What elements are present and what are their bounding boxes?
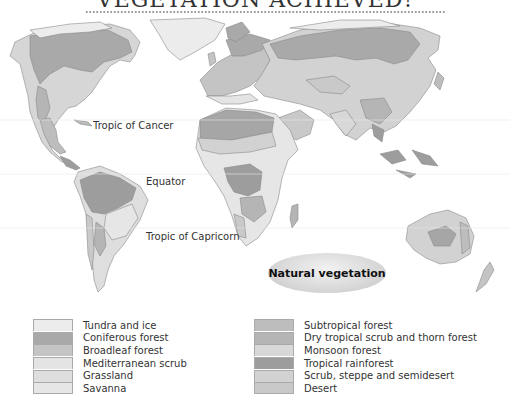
- legend-swatch: [254, 382, 294, 394]
- legend-swatch: [33, 319, 73, 331]
- legend-item-dry-tropical: Dry tropical scrub and thorn forest: [254, 332, 477, 345]
- legend-item-mediterranean: Mediterranean scrub: [33, 357, 187, 370]
- legend-swatch: [254, 357, 294, 369]
- legend-item-desert: Desert: [254, 382, 477, 395]
- legend-item-subtropical: Subtropical forest: [254, 319, 477, 332]
- legend-right: Subtropical forest Dry tropical scrub an…: [254, 319, 477, 395]
- tropic-of-cancer-label: Tropic of Cancer: [93, 120, 173, 131]
- legend-item-scrub-steppe: Scrub, steppe and semidesert: [254, 369, 477, 382]
- legend-swatch: [33, 344, 73, 356]
- legend-swatch: [254, 344, 294, 356]
- legend-swatch: [254, 332, 294, 344]
- legend-left: Tundra and ice Coniferous forest Broadle…: [33, 319, 187, 395]
- legend-item-rainforest: Tropical rainforest: [254, 357, 477, 370]
- legend-swatch: [33, 382, 73, 394]
- legend-item-grassland: Grassland: [33, 369, 187, 382]
- badge-label: Natural vegetation: [268, 267, 385, 280]
- page-title: VEGETATION ACHIEVED!: [0, 0, 510, 11]
- legend-item-savanna: Savanna: [33, 382, 187, 395]
- legend-swatch: [33, 332, 73, 344]
- legend-swatch: [33, 370, 73, 382]
- legend-item-coniferous: Coniferous forest: [33, 332, 187, 345]
- legend-swatch: [254, 370, 294, 382]
- legend-swatch: [254, 319, 294, 331]
- legend-swatch: [33, 357, 73, 369]
- natural-vegetation-badge: Natural vegetation: [268, 253, 386, 293]
- equator-label: Equator: [146, 176, 185, 187]
- title-dotted-divider: [85, 11, 445, 13]
- legend-item-broadleaf: Broadleaf forest: [33, 344, 187, 357]
- tropic-of-capricorn-label: Tropic of Capricorn: [146, 231, 240, 242]
- world-vegetation-map: [0, 14, 510, 314]
- legend-item-tundra: Tundra and ice: [33, 319, 187, 332]
- legend-item-monsoon: Monsoon forest: [254, 344, 477, 357]
